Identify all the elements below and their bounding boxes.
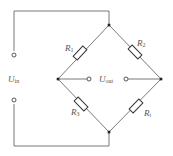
top-junction-node (108, 24, 111, 27)
resistor-rt (129, 99, 143, 113)
bottom-junction-node (108, 131, 111, 134)
resistor-r1 (73, 46, 87, 60)
left-junction-node (57, 78, 60, 81)
bottom-supply-wire (14, 104, 109, 146)
output-right-terminal (124, 77, 128, 81)
top-supply-wire (14, 11, 109, 51)
r3-label: R3 (70, 107, 80, 117)
output-left-terminal (87, 77, 91, 81)
r1-label: R1 (64, 43, 74, 53)
input-voltage-label: Uin (8, 74, 19, 84)
right-junction-node (160, 78, 163, 81)
bridge-circuit-diagram: Uin Uout R1 R2 R3 Rt (0, 0, 173, 156)
output-voltage-label: Uout (99, 74, 114, 84)
input-positive-terminal (12, 53, 16, 57)
input-negative-terminal (12, 98, 16, 102)
rt-label: Rt (143, 108, 152, 118)
r2-label: R2 (136, 38, 146, 48)
